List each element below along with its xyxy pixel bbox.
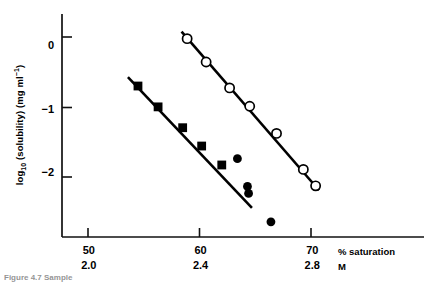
- series-filled-square-series: [128, 77, 252, 208]
- data-point: [299, 165, 308, 174]
- x-tick-label-molarity: 2.0: [72, 259, 106, 271]
- x-axis-unit-percent-saturation: % saturation: [338, 246, 395, 257]
- y-tick-label: 0: [28, 39, 54, 51]
- plot-area: log10 (solubility) (mg ml−1) 0−1−2 502.0…: [0, 0, 432, 282]
- y-axis-title: log10 (solubility) (mg ml−1): [13, 20, 27, 230]
- data-point: [197, 142, 206, 151]
- data-point: [183, 34, 192, 43]
- y-axis-title-prefix: log: [14, 171, 25, 186]
- x-axis-ticks: [88, 228, 311, 237]
- x-axis-unit-molarity: M: [338, 261, 346, 272]
- y-axis-title-suffix: ): [14, 65, 25, 68]
- x-tick-label-saturation: 60: [184, 244, 218, 256]
- series-open-circle-series: [182, 32, 321, 191]
- data-point: [272, 129, 281, 138]
- y-axis-ticks: [62, 37, 72, 177]
- data-point: [244, 189, 253, 198]
- data-layer: [128, 32, 320, 227]
- y-axis-title-middle: (solubility) (mg ml: [14, 76, 25, 162]
- figure-root: log10 (solubility) (mg ml−1) 0−1−2 502.0…: [0, 0, 432, 282]
- data-point: [267, 217, 276, 226]
- y-axis-title-superscript: −1: [13, 68, 20, 76]
- data-point: [233, 154, 242, 163]
- x-tick-label-saturation: 70: [295, 244, 329, 256]
- data-point: [225, 83, 234, 92]
- figure-caption: Figure 4.7 Sample: [4, 272, 428, 282]
- data-point: [217, 161, 226, 170]
- data-point: [202, 57, 211, 66]
- data-point: [134, 82, 143, 91]
- data-point: [178, 123, 187, 132]
- data-point: [245, 102, 254, 111]
- y-axis-title-subscript: 10: [20, 163, 27, 171]
- data-point: [311, 181, 320, 190]
- x-tick-label-molarity: 2.8: [295, 259, 329, 271]
- x-tick-label-molarity: 2.4: [184, 259, 218, 271]
- axis-lines: [62, 14, 424, 237]
- y-tick-label: −2: [28, 166, 54, 178]
- x-tick-label-saturation: 50: [72, 244, 106, 256]
- y-tick-label: −1: [28, 103, 54, 115]
- fit-line-filled-square-series: [128, 77, 252, 208]
- series-filled-circle-series: [233, 154, 275, 226]
- data-point: [154, 102, 163, 111]
- chart-canvas: [0, 0, 432, 282]
